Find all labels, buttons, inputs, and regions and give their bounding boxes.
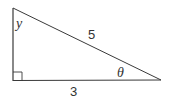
base-label: 3 (70, 84, 77, 99)
triangle-diagram: y 5 θ 3 (0, 0, 172, 100)
angle-theta-label: θ (117, 65, 124, 80)
triangle (13, 8, 161, 81)
right-angle-marker (13, 72, 22, 81)
angle-y-label: y (14, 16, 23, 31)
hypotenuse-label: 5 (88, 27, 95, 42)
base-leg (13, 80, 161, 81)
hypotenuse (13, 8, 161, 80)
